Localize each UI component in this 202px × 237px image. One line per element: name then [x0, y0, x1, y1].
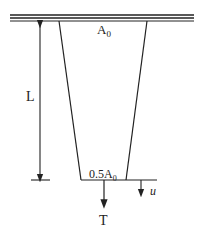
load-label: T [99, 213, 108, 228]
top-area-label: A0 [97, 22, 111, 39]
bottom-area-label: 0.5A0 [89, 167, 117, 183]
displacement-label: u [150, 184, 156, 198]
fixed-support [10, 15, 194, 21]
tapered-bar [59, 21, 157, 180]
tapered-bar-diagram: A0 0.5A0 L T u [0, 0, 202, 237]
length-label: L [26, 89, 35, 104]
